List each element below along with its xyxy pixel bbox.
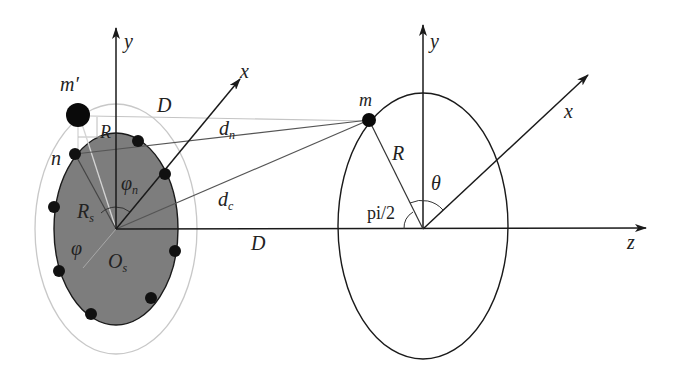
label-R-right: R bbox=[391, 142, 404, 164]
label-dn: dn bbox=[219, 117, 235, 142]
helper-line-D-top bbox=[90, 116, 368, 121]
label-D-top: D bbox=[156, 94, 172, 116]
label-D-axis: D bbox=[250, 232, 266, 254]
angle-arc-pi2 bbox=[404, 212, 413, 229]
label-m: m bbox=[359, 90, 372, 110]
diagram-canvas: y x m′ D R n φn Rs φ Os dn dc D y x z m … bbox=[0, 0, 677, 377]
diagram-svg: y x m′ D R n φn Rs φ Os dn dc D y x z m … bbox=[0, 0, 677, 377]
label-R-offset: R bbox=[99, 122, 111, 142]
label-n: n bbox=[51, 147, 61, 169]
source-point bbox=[169, 245, 181, 257]
label-left-x: x bbox=[239, 60, 249, 82]
label-theta: θ bbox=[431, 172, 441, 194]
z-axis bbox=[116, 228, 646, 229]
label-z: z bbox=[626, 231, 635, 253]
label-left-y: y bbox=[122, 30, 133, 53]
label-right-y: y bbox=[428, 30, 439, 53]
source-point bbox=[159, 168, 171, 180]
label-phi: φ bbox=[71, 237, 82, 260]
point-mprime bbox=[66, 103, 90, 127]
source-point bbox=[48, 201, 60, 213]
source-point bbox=[145, 292, 157, 304]
angle-arc-theta bbox=[410, 200, 443, 210]
label-mprime: m′ bbox=[60, 73, 79, 95]
label-right-x: x bbox=[563, 100, 573, 122]
label-dc: dc bbox=[218, 188, 234, 213]
source-point-n bbox=[69, 148, 81, 160]
point-m bbox=[362, 113, 376, 127]
source-point bbox=[132, 135, 144, 147]
source-point bbox=[85, 308, 97, 320]
source-point bbox=[53, 265, 65, 277]
label-pi2: pi/2 bbox=[367, 203, 395, 223]
